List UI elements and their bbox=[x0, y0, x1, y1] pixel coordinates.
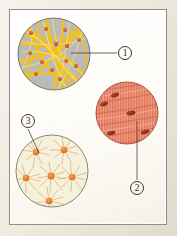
figure-plate: 1 2 3 bbox=[0, 0, 177, 236]
callout-number-1[interactable]: 1 bbox=[118, 46, 132, 60]
panel-connective-tissue bbox=[16, 16, 94, 96]
panel-muscle-tissue bbox=[94, 80, 162, 148]
callout-number-2[interactable]: 2 bbox=[130, 181, 144, 195]
callout-number-3[interactable]: 3 bbox=[21, 114, 35, 128]
panel-3-background bbox=[14, 133, 92, 211]
panel-reticular-tissue bbox=[14, 133, 92, 214]
illustration-stage: 1 2 3 bbox=[0, 0, 177, 236]
